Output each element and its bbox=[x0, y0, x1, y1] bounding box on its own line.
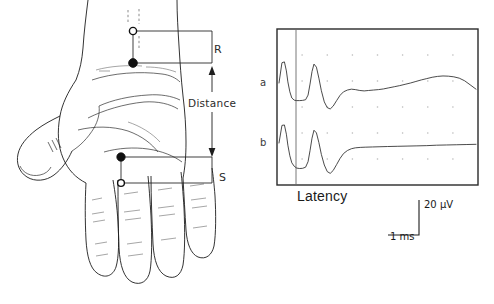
nerve-conduction-figure: R S Distance a b Latency 20 µV 1 ms bbox=[0, 0, 494, 304]
x-axis-label-latency: Latency bbox=[297, 189, 347, 203]
scale-bar bbox=[388, 200, 419, 235]
waveform-trace-a bbox=[279, 62, 476, 109]
emg-plot-layer bbox=[0, 0, 494, 304]
scale-bar-amplitude-label: 20 µV bbox=[424, 200, 453, 210]
trace-label-b: b bbox=[260, 138, 266, 148]
plot-grid-dots bbox=[301, 54, 453, 160]
scale-bar-time-label: 1 ms bbox=[390, 232, 415, 242]
trace-label-a: a bbox=[260, 78, 266, 88]
